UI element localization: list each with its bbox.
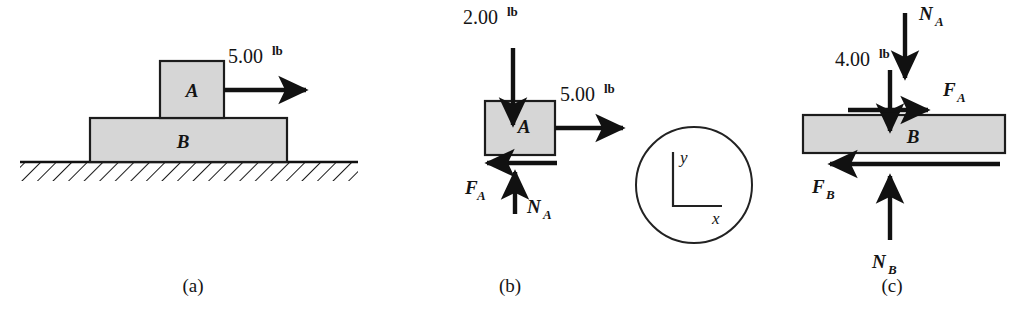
friction-fa-reaction-arrow: F A [848,79,966,110]
friction-fa-arrow: F A [464,163,557,203]
normal-na-arrow: N A [515,172,552,222]
block-a-label: A [185,80,199,101]
normal-na-subscript: A [934,14,944,29]
applied-force-5lb-arrow: 5.00 lb [555,81,623,128]
normal-na-subscript: A [542,207,552,222]
panel-c: B N A 4.00 lb F A F [803,3,1005,297]
friction-fb-arrow: F B [811,164,1000,202]
physics-diagram-svg: B A 5.00 lb (a) A [0,0,1021,331]
axis-x-label: x [711,209,720,228]
normal-na-symbol: N [526,196,542,217]
coordinate-axes-key: y x [636,127,752,243]
friction-fa-symbol: F [942,79,956,100]
block-b-label: B [176,131,190,152]
friction-fa-subscript: A [476,188,486,203]
friction-fa-symbol: F [464,177,478,198]
panel-b: A 2.00 lb 5.00 lb F A [463,4,623,297]
normal-nb-arrow: N B [871,176,897,277]
force-5lb-unit: lb [272,43,283,58]
force-5lb-magnitude: 5.00 [228,45,263,67]
block-a-label: A [517,116,531,137]
friction-fb-symbol: F [811,176,825,197]
axis-y-label: y [678,148,688,167]
force-4lb-magnitude: 4.00 [835,48,870,70]
block-a: A [160,61,224,118]
block-b: B [90,118,287,162]
force-5lb-unit: lb [604,81,615,96]
block-a: A [485,101,555,155]
panel-a: B A 5.00 lb (a) [20,43,358,297]
normal-na-symbol: N [918,3,934,24]
friction-fb-subscript: B [825,187,835,202]
caption-a: (a) [182,275,203,297]
block-b-label: B [906,126,920,147]
force-2lb-unit: lb [507,4,518,19]
force-5lb-magnitude: 5.00 [560,83,595,105]
caption-b: (b) [499,275,521,297]
caption-c: (c) [881,275,902,297]
figure-root: B A 5.00 lb (a) A [0,0,1021,331]
block-b: B [803,115,1005,153]
ground-hatching [20,162,358,181]
force-4lb-unit: lb [879,46,890,61]
normal-na-reaction-arrow: N A [905,3,944,78]
force-2lb-magnitude: 2.00 [463,6,498,28]
friction-fa-subscript: A [956,90,966,105]
normal-nb-symbol: N [871,251,887,272]
applied-force-5lb-arrow: 5.00 lb [224,43,306,90]
